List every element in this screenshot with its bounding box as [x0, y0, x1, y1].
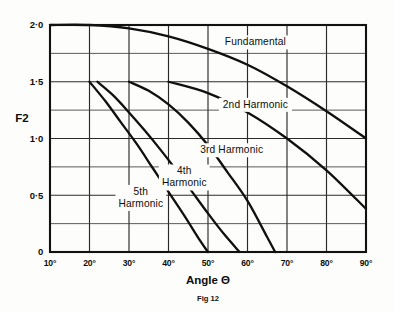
y-tick-label: 1·5	[30, 76, 44, 87]
y-tick-label: 0·5	[30, 190, 44, 201]
x-axis-tick-labels: 10°20°30°40°50°60°70°80°90°	[44, 258, 373, 268]
y-axis-tick-labels: 00·51·01·52·0	[30, 19, 44, 257]
harmonic-response-chart: 00·51·01·52·0 10°20°30°40°50°60°70°80°90…	[0, 0, 395, 312]
x-tick-label: 10°	[44, 258, 57, 268]
curve-label-fundamental: Fundamental	[225, 36, 286, 47]
x-tick-label: 50°	[202, 258, 215, 268]
figure-container: 00·51·01·52·0 10°20°30°40°50°60°70°80°90…	[0, 0, 395, 312]
x-tick-label: 70°	[281, 258, 294, 268]
curve-label-2nd-harmonic: 2nd Harmonic	[223, 99, 288, 110]
x-tick-label: 40°	[162, 258, 175, 268]
y-axis-title: F2	[15, 112, 28, 124]
curve-label-4th-harmonic: Harmonic	[162, 177, 207, 188]
x-tick-label: 20°	[83, 258, 96, 268]
x-tick-label: 90°	[360, 258, 373, 268]
curve-label-3rd-harmonic: 3rd Harmonic	[200, 144, 263, 155]
curve-label-5th-harmonic: Harmonic	[118, 198, 163, 209]
figure-caption: Fig 12	[197, 294, 219, 303]
x-tick-label: 60°	[241, 258, 254, 268]
grid-lines	[50, 25, 366, 252]
curve-label-4th-harmonic: 4th	[177, 165, 192, 176]
y-tick-label: 2·0	[30, 19, 43, 30]
x-axis-title: Angle Θ	[186, 274, 230, 286]
curve-label-5th-harmonic: 5th	[134, 186, 149, 197]
y-tick-label: 0	[38, 246, 43, 257]
y-tick-label: 1·0	[30, 133, 43, 144]
x-tick-label: 80°	[320, 258, 333, 268]
x-tick-label: 30°	[123, 258, 136, 268]
